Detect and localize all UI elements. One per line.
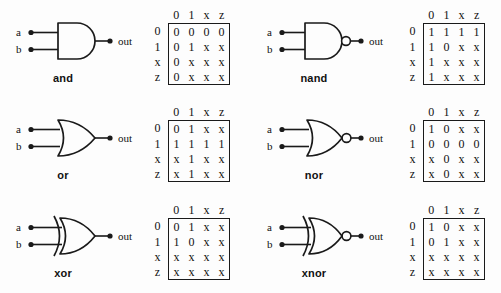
row-header-3: z [405,264,424,280]
cell-2-1: x [184,54,199,69]
cell-2-2: x [199,151,214,166]
input-label-b: b [267,140,273,152]
row-header-2: x [405,151,424,166]
cell-1-2: 0 [454,136,469,151]
gate-symbol-area-xnor: a b out xnor [251,195,401,293]
input-label-a: a [267,123,272,135]
gate-block-xnor: a b out xnor 0 1 x [251,195,501,293]
cell-3-0: x [169,166,185,182]
cell-2-0: 1 [424,54,440,69]
cell-1-0: 1 [169,234,185,249]
input-label-a: a [16,123,21,135]
gate-block-or: a b out or 0 1 x z [0,97,250,195]
cell-0-0: 0 [169,219,185,235]
gate-name-xnor: xnor [251,267,377,279]
nor-body-shape [307,120,342,156]
row-header-2: x [405,54,424,69]
output-dot [358,233,363,238]
row-header-2: x [405,249,424,264]
cell-2-2: x [454,151,469,166]
table-row: 0 1 0 x x [405,219,485,235]
col-header-1: 1 [184,202,199,219]
table-row: 1 1 1 1 1 [150,136,230,151]
xnor-extra-arc [303,216,309,256]
cell-2-3: x [214,151,230,166]
xnor-gate-icon: a b out [265,213,391,265]
cell-0-3: 1 [469,24,485,40]
input-label-b: b [267,43,273,55]
gate-name-nand: nand [251,72,377,84]
output-label: out [118,132,132,144]
gate-symbol-area-nand: a b out nand [251,0,401,98]
cell-0-0: 0 [169,121,185,137]
input-label-b: b [267,238,273,250]
table-row: z x 1 x x [150,166,230,182]
col-header-3: z [469,104,485,121]
truth-table-xor: 0 1 x z 0 0 1 x x 1 1 0 x x [150,202,230,280]
col-header-0: 0 [169,7,185,24]
col-header-3: z [214,7,230,24]
cell-2-2: x [199,54,214,69]
row-header-1: 1 [150,39,169,54]
table-row: 0 0 0 0 0 [150,24,230,40]
table-row: x x x x x [150,249,230,264]
row-header-3: z [405,166,424,182]
cell-3-1: x [184,264,199,280]
cell-0-3: 0 [214,24,230,40]
gate-name-and: and [0,72,126,84]
xor-extra-arc [54,216,60,256]
logic-gate-reference-figure: a b out and 0 1 x z [0,0,501,293]
cell-1-0: 0 [424,234,440,249]
cell-2-1: 0 [439,151,454,166]
table-corner [150,202,169,219]
cell-0-2: x [454,121,469,137]
cell-3-3: x [469,264,485,280]
cell-1-2: x [454,234,469,249]
cell-1-0: 0 [424,136,440,151]
cell-3-0: x [424,264,440,280]
table-row: 1 1 0 x x [405,39,485,54]
cell-3-1: x [439,264,454,280]
cell-3-0: x [424,166,440,182]
xor-gate-icon: a b out [14,213,140,265]
output-label: out [118,35,132,47]
row-header-1: 1 [405,136,424,151]
inversion-bubble-icon [342,134,351,143]
cell-2-2: x [454,54,469,69]
and-body-shape [58,23,95,59]
cell-2-2: x [199,249,214,264]
col-header-0: 0 [424,104,440,121]
row-header-3: z [150,264,169,280]
cell-1-2: x [199,39,214,54]
input-label-a: a [16,26,21,38]
output-label: out [369,132,383,144]
nor-gate-icon: a b out [265,115,391,167]
col-header-2: x [199,104,214,121]
table-row: z x 0 x x [405,166,485,182]
cell-3-2: x [454,166,469,182]
cell-2-0: x [169,151,185,166]
gate-block-nor: a b out nor 0 1 x z [251,97,501,195]
or-body-shape [58,120,95,156]
table-row: x x 0 x x [405,151,485,166]
cell-1-0: 1 [424,39,440,54]
cell-0-3: x [469,219,485,235]
col-header-0: 0 [424,202,440,219]
cell-1-1: 1 [184,39,199,54]
cell-1-3: x [469,39,485,54]
table-corner [405,202,424,219]
cell-2-3: x [469,249,485,264]
cell-3-1: x [184,69,199,85]
gate-name-or: or [0,169,126,181]
col-header-2: x [454,202,469,219]
cell-0-1: 1 [439,24,454,40]
cell-2-1: x [439,249,454,264]
cell-1-2: 1 [199,136,214,151]
truth-table-area-nor: 0 1 x z 0 1 0 x x 1 0 0 0 0 [405,104,501,192]
cell-2-3: x [214,54,230,69]
cell-1-0: 0 [169,39,185,54]
cell-3-3: x [214,166,230,182]
input-label-b: b [16,238,22,250]
table-row: x 0 x x x [150,54,230,69]
cell-3-3: x [469,166,485,182]
